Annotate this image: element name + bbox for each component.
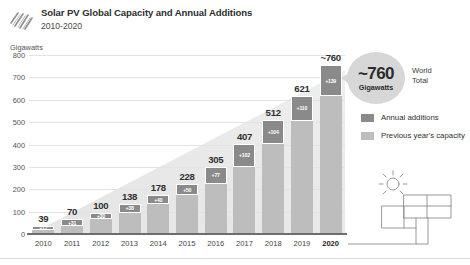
world-total-label: World Total xyxy=(412,66,458,85)
callout-unit: Gigawatts xyxy=(347,83,405,92)
y-axis-tick-label: 500 xyxy=(13,118,25,127)
bar-column[interactable]: +110621 xyxy=(291,96,313,235)
bar-total-label: 621 xyxy=(284,83,320,94)
bar-segment-annual-additions xyxy=(262,120,284,143)
gridline: 700 xyxy=(29,77,345,78)
chart-plot-area: 0100200300400500600700800 +1739+3170+301… xyxy=(29,56,345,235)
bar-segment-previous-capacity xyxy=(291,121,313,235)
y-axis-tick-label: 400 xyxy=(13,140,25,149)
title-block: Solar PV Global Capacity and Annual Addi… xyxy=(41,7,252,32)
legend-item-annual-additions[interactable]: Annual additions xyxy=(361,113,466,124)
bar-segment-previous-capacity xyxy=(147,204,169,235)
bar-segment-annual-additions xyxy=(32,226,54,230)
world-total-line-1: World xyxy=(412,66,458,76)
bar-column[interactable]: +139~760 xyxy=(320,65,342,235)
chart-header: Solar PV Global Capacity and Annual Addi… xyxy=(0,0,470,40)
bar-segment-annual-additions xyxy=(90,213,112,220)
x-axis-baseline xyxy=(27,233,347,235)
callout-value: ~760 xyxy=(347,64,405,84)
x-axis-tick-label: 2020 xyxy=(313,239,349,248)
bar-total-label: 407 xyxy=(226,131,262,142)
y-axis-tick-label: 700 xyxy=(13,73,25,82)
bar-total-label: 178 xyxy=(140,182,176,193)
bar-segment-previous-capacity xyxy=(320,96,342,235)
bar-segment-annual-additions xyxy=(205,167,227,184)
y-axis-tick-label: 300 xyxy=(13,162,25,171)
bar-column[interactable]: +40178 xyxy=(147,195,169,235)
bar-segment-annual-additions xyxy=(320,65,342,96)
legend-item-label: Previous year's capacity xyxy=(381,131,466,141)
bar-total-label: 305 xyxy=(198,154,234,165)
legend-swatch-dark-icon xyxy=(361,114,374,122)
legend-swatch-light-icon xyxy=(361,132,374,140)
y-axis-tick-label: 0 xyxy=(21,230,25,239)
y-axis-tick-label: 800 xyxy=(13,51,25,60)
chart-legend: Annual additions Previous year's capacit… xyxy=(361,113,466,149)
bar-column[interactable]: +38138 xyxy=(119,204,141,235)
bar-column[interactable]: +77305 xyxy=(205,167,227,235)
bar-segment-previous-capacity xyxy=(233,167,255,235)
bar-segment-annual-additions xyxy=(176,184,198,195)
bar-segment-previous-capacity xyxy=(262,144,284,235)
legend-item-label: Annual additions xyxy=(381,113,466,123)
world-total-line-2: Total xyxy=(412,76,458,86)
bar-total-label: ~760 xyxy=(313,52,349,63)
sun-and-solar-panel-icon xyxy=(348,168,470,248)
y-axis-tick-label: 100 xyxy=(13,207,25,216)
bar-total-label: 512 xyxy=(255,107,291,118)
bar-column[interactable]: +50228 xyxy=(176,184,198,235)
bar-column[interactable]: +102407 xyxy=(233,144,255,235)
bar-segment-annual-additions xyxy=(147,195,169,204)
bar-column[interactable]: +104512 xyxy=(262,120,284,235)
bar-segment-annual-additions xyxy=(233,144,255,167)
bottom-divider xyxy=(0,258,470,259)
y-axis-tick-label: 600 xyxy=(13,95,25,104)
solar-stripes-logo-icon xyxy=(9,9,33,31)
bar-column[interactable]: +30100 xyxy=(90,213,112,235)
bar-total-label: 228 xyxy=(169,171,205,182)
bar-segment-previous-capacity xyxy=(119,213,141,235)
gridline: 800 xyxy=(29,55,345,56)
world-total-callout: ~760 Gigawatts xyxy=(347,52,405,104)
page-title: Solar PV Global Capacity and Annual Addi… xyxy=(41,7,252,19)
y-axis-tick-label: 200 xyxy=(13,185,25,194)
bar-segment-annual-additions xyxy=(61,219,83,226)
legend-item-previous-capacity[interactable]: Previous year's capacity xyxy=(361,131,466,142)
page-subtitle: 2010-2020 xyxy=(41,20,252,32)
bar-segment-annual-additions xyxy=(291,96,313,121)
bar-segment-previous-capacity xyxy=(205,184,227,235)
bar-segment-annual-additions xyxy=(119,204,141,213)
bar-segment-previous-capacity xyxy=(176,195,198,235)
